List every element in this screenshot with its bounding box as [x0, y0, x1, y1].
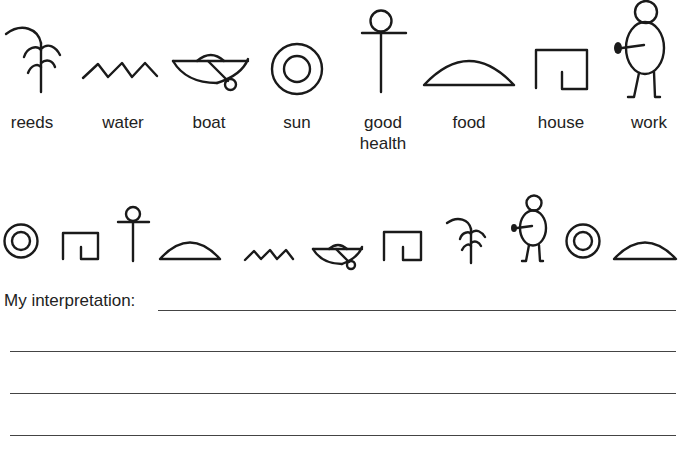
- sun-icon: [270, 42, 324, 96]
- reeds-icon: [4, 25, 60, 95]
- legend-label-good-health-line2: health: [350, 133, 416, 154]
- answer-line-4[interactable]: [10, 435, 676, 436]
- food-icon: [159, 237, 221, 261]
- food-icon: [422, 53, 516, 87]
- legend-label-boat: boat: [176, 112, 242, 133]
- good-health-icon: [360, 8, 408, 94]
- answer-line-3[interactable]: [10, 393, 676, 394]
- reeds-icon: [446, 217, 486, 265]
- legend-label-work: work: [616, 112, 679, 133]
- legend-label-water: water: [90, 112, 156, 133]
- house-icon: [62, 231, 100, 261]
- legend-label-reeds: reeds: [4, 112, 60, 133]
- boat-icon: [312, 243, 364, 271]
- answer-line-2[interactable]: [10, 351, 676, 352]
- house-icon: [534, 48, 590, 92]
- legend-label-house: house: [528, 112, 594, 133]
- legend-label-good-health: good health: [350, 112, 416, 154]
- work-icon: [610, 0, 668, 100]
- sun-icon: [3, 223, 39, 259]
- sun-icon: [565, 223, 601, 259]
- legend-label-food: food: [436, 112, 502, 133]
- good-health-icon: [117, 205, 151, 263]
- legend-label-good-health-line1: good: [350, 112, 416, 133]
- house-icon: [383, 230, 423, 262]
- interpretation-prompt: My interpretation:: [4, 291, 135, 311]
- legend-label-sun: sun: [264, 112, 330, 133]
- water-icon: [82, 60, 158, 80]
- food-icon: [613, 237, 677, 261]
- boat-icon: [172, 53, 250, 93]
- work-icon: [509, 195, 549, 263]
- water-icon: [244, 248, 294, 262]
- answer-line-1[interactable]: [158, 310, 676, 311]
